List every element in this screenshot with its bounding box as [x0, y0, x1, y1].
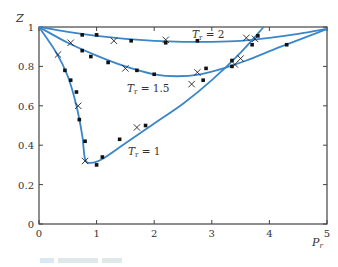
chart: 01234500.20.40.60.81 Z Pr Tr = 2 Tr = 1.…: [0, 0, 338, 267]
y-axis-title: Z: [15, 12, 24, 25]
y-tick-label: 0.8: [18, 61, 34, 72]
data-point-dot: [75, 90, 79, 94]
curve-label-tr2: Tr = 2: [192, 28, 225, 42]
data-point-dot: [78, 118, 82, 122]
data-point-dot: [80, 33, 84, 37]
data-point-dot: [106, 61, 110, 65]
plot-frame: [39, 27, 327, 224]
data-point-dot: [95, 163, 99, 167]
curve-label-tr1: Tr = 1: [128, 145, 161, 159]
x-tick-label: 3: [209, 228, 215, 239]
data-point-dot: [129, 39, 133, 43]
y-tick-label: 0.6: [18, 101, 34, 112]
data-point-dot: [83, 139, 87, 143]
y-tick-label: 0.4: [18, 140, 34, 151]
data-point-dot: [69, 78, 73, 82]
data-point-dot: [152, 72, 156, 76]
x-axis-title: Pr: [311, 236, 323, 250]
data-point-dot: [95, 33, 99, 37]
data-point-dot: [63, 69, 67, 73]
figure-caption-faded: [40, 258, 160, 264]
data-point-dot: [118, 137, 122, 141]
data-point-cross: [188, 81, 194, 87]
x-tick-label: 4: [266, 228, 272, 239]
x-tick-label: 0: [36, 228, 42, 239]
data-point-dot: [101, 155, 105, 159]
y-tick-label: 0.2: [18, 180, 34, 191]
data-point-dot: [204, 67, 208, 71]
data-point-dot: [285, 43, 289, 47]
data-curves: [39, 27, 327, 163]
x-tick-label: 5: [324, 228, 330, 239]
data-point-dot: [144, 124, 148, 128]
data-point-cross: [134, 124, 140, 130]
data-point-dot: [201, 78, 205, 82]
data-point-dot: [135, 69, 139, 73]
curve-tr-1: [39, 27, 264, 163]
data-point-dot: [89, 55, 93, 59]
x-tick-label: 1: [93, 228, 99, 239]
x-tick-label: 2: [151, 228, 157, 239]
data-point-cross: [237, 55, 243, 61]
y-tick-label: 1: [28, 22, 34, 33]
y-tick-label: 0: [28, 219, 34, 230]
data-point-dot: [80, 49, 84, 53]
data-point-dot: [250, 43, 254, 47]
plot-axes: 01234500.20.40.60.81: [18, 22, 330, 239]
curve-label-tr15: Tr = 1.5: [127, 82, 170, 96]
